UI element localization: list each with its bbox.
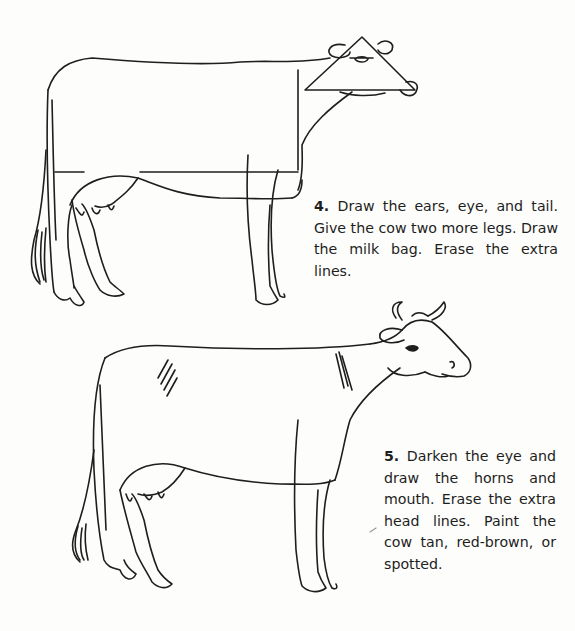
step-5-instructions: 5. Darken the eye and draw the horns and… bbox=[384, 446, 556, 575]
step-4-number: 4. bbox=[314, 198, 329, 214]
step-4-text: Draw the ears, eye, and tail. Give the c… bbox=[314, 198, 558, 279]
step-5-number: 5. bbox=[384, 448, 399, 464]
step-4-instructions: 4. Draw the ears, eye, and tail. Give th… bbox=[314, 196, 558, 282]
step-5-text: Darken the eye and draw the horns and mo… bbox=[384, 448, 556, 572]
